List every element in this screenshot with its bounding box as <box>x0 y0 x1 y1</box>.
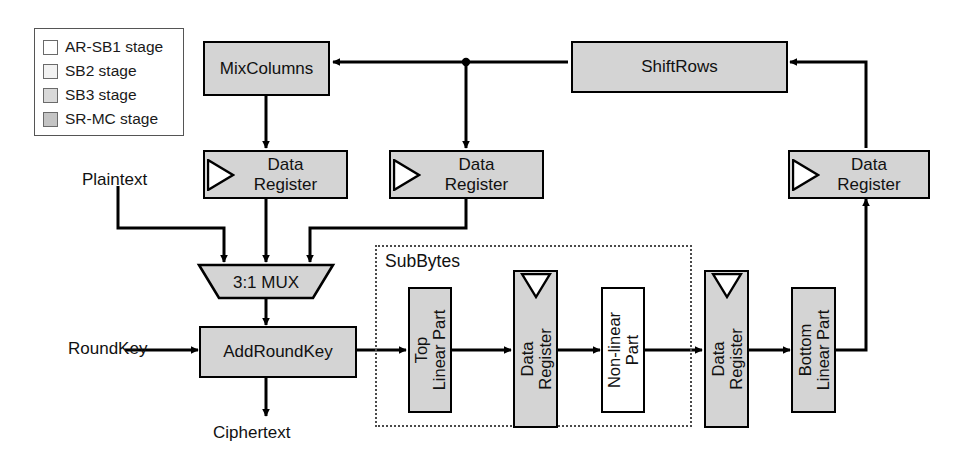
block-mixcolumns-label: MixColumns <box>220 59 314 78</box>
legend-swatch-ar-sb1 <box>43 40 58 55</box>
legend-label-sb3: SB3 stage <box>65 86 137 104</box>
label-roundkey: RoundKey <box>68 339 147 359</box>
block-subbytes-dr2-line2: Register <box>727 328 745 389</box>
block-subbytes-dr2-line1: Data <box>708 342 726 377</box>
block-bottom-linear-part-text: Bottom Linear Part <box>795 310 832 391</box>
group-subbytes-title: SubBytes <box>385 251 460 272</box>
legend-label-sb2: SB2 stage <box>65 62 137 80</box>
label-plaintext: Plaintext <box>82 170 147 190</box>
legend-swatch-sb3 <box>43 88 58 103</box>
block-top-linear-part[interactable]: Top Linear Part <box>408 287 452 413</box>
legend-item-sb2: SB2 stage <box>43 59 183 83</box>
block-nonlinear-part-text: Non-linear Part <box>605 312 642 388</box>
block-subbytes-data-register-2[interactable]: Data Register <box>704 270 749 428</box>
block-subbytes-data-register-1-text: Data Register <box>517 328 554 389</box>
block-subbytes-dr1-line1: Data <box>517 342 535 377</box>
block-data-register-2-line1: Data <box>459 155 495 174</box>
block-top-linear-part-line1: Top <box>412 337 430 364</box>
mux-trapezoid-shape <box>196 263 336 300</box>
block-data-register-1-line2: Register <box>254 175 317 194</box>
block-top-linear-part-text: Top Linear Part <box>412 310 449 391</box>
legend-item-sb3: SB3 stage <box>43 83 183 107</box>
block-bottom-linear-part-line1: Bottom <box>795 324 813 376</box>
block-subbytes-data-register-2-text: Data Register <box>708 328 745 389</box>
clock-triangle-icon <box>520 273 552 299</box>
block-data-register-2-line2: Register <box>445 175 508 194</box>
block-shiftrows-label: ShiftRows <box>641 57 718 76</box>
block-top-linear-part-line2: Linear Part <box>430 310 448 391</box>
block-nonlinear-part-line2: Part <box>623 335 641 365</box>
block-mixcolumns[interactable]: MixColumns <box>203 41 330 96</box>
block-nonlinear-part[interactable]: Non-linear Part <box>601 287 645 413</box>
block-addroundkey-label: AddRoundKey <box>223 342 333 361</box>
legend-swatch-sb2 <box>43 64 58 79</box>
block-shiftrows[interactable]: ShiftRows <box>571 41 788 93</box>
clock-triangle-icon <box>711 273 743 299</box>
label-ciphertext: Ciphertext <box>213 423 290 443</box>
block-data-register-3[interactable]: Data Register <box>788 150 930 199</box>
block-subbytes-dr1-line2: Register <box>536 328 554 389</box>
block-nonlinear-part-line1: Non-linear <box>605 312 623 388</box>
legend-label-sr-mc: SR-MC stage <box>65 110 158 128</box>
block-mux[interactable]: 3:1 MUX <box>196 263 336 300</box>
block-data-register-2[interactable]: Data Register <box>389 150 544 199</box>
block-data-register-3-line1: Data <box>851 155 887 174</box>
block-bottom-linear-part[interactable]: Bottom Linear Part <box>791 287 836 413</box>
clock-triangle-icon <box>207 159 235 191</box>
block-data-register-3-line2: Register <box>837 175 900 194</box>
block-data-register-1[interactable]: Data Register <box>203 150 348 199</box>
block-data-register-1-line1: Data <box>268 155 304 174</box>
clock-triangle-icon <box>393 159 421 191</box>
legend-label-ar-sb1: AR-SB1 stage <box>65 38 163 56</box>
legend-item-sr-mc: SR-MC stage <box>43 107 183 131</box>
legend-item-ar-sb1: AR-SB1 stage <box>43 35 183 59</box>
diagram-canvas: AR-SB1 stage SB2 stage SB3 stage SR-MC s… <box>0 0 963 474</box>
block-subbytes-data-register-1[interactable]: Data Register <box>513 270 558 428</box>
legend-box: AR-SB1 stage SB2 stage SB3 stage SR-MC s… <box>34 28 184 136</box>
block-addroundkey[interactable]: AddRoundKey <box>199 326 357 378</box>
clock-triangle-icon <box>792 159 820 191</box>
block-bottom-linear-part-line2: Linear Part <box>814 310 832 391</box>
legend-swatch-sr-mc <box>43 112 58 127</box>
